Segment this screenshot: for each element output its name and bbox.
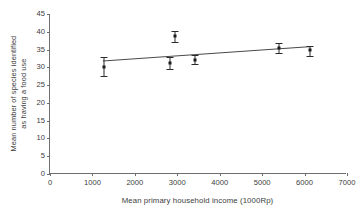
- y-axis-tick-label: 40: [37, 28, 45, 36]
- y-axis-tick-label: 25: [37, 81, 45, 89]
- x-axis-tick-label: 1000: [84, 179, 101, 187]
- y-axis-tick-label: 35: [37, 46, 45, 54]
- y-axis-tick: [47, 103, 50, 104]
- y-axis-tick: [47, 50, 50, 51]
- chart-scatter-income-vs-species: Mean number of species identified as hav…: [0, 0, 362, 213]
- y-axis-tick-label: 10: [37, 135, 45, 143]
- error-bar-cap: [101, 76, 108, 77]
- y-axis-tick-label: 15: [37, 117, 45, 125]
- y-axis-title-line-2: as having a food use: [19, 9, 29, 179]
- x-axis-tick-label: 0: [48, 179, 52, 187]
- x-axis-tick-label: 7000: [339, 179, 356, 187]
- x-axis-tick-label: 2000: [126, 179, 143, 187]
- error-bar-cap: [166, 57, 173, 58]
- y-axis-tick: [47, 85, 50, 86]
- x-axis-tick-label: 3000: [169, 179, 186, 187]
- error-bar-cap: [276, 43, 283, 44]
- x-axis-tick: [305, 173, 306, 176]
- x-axis-tick: [135, 173, 136, 176]
- x-axis-tick: [50, 173, 51, 176]
- x-axis-tick: [262, 173, 263, 176]
- y-axis-title-line-1: Mean number of species identified: [9, 9, 19, 179]
- error-bar-cap: [192, 55, 199, 56]
- error-bar-cap: [101, 57, 108, 58]
- data-point-marker: [194, 58, 197, 61]
- y-axis-tick: [47, 138, 50, 139]
- x-axis-tick: [220, 173, 221, 176]
- error-bar-cap: [172, 42, 179, 43]
- y-axis-tick: [47, 67, 50, 68]
- y-axis-tick-label: 0: [41, 170, 45, 178]
- y-axis-tick: [47, 32, 50, 33]
- data-point-marker: [103, 66, 106, 69]
- x-axis-tick: [177, 173, 178, 176]
- x-axis-tick: [347, 173, 348, 176]
- plot-area: 0510152025303540450100020003000400050006…: [49, 14, 346, 174]
- y-axis-tick-label: 20: [37, 99, 45, 107]
- y-axis-tick-label: 30: [37, 64, 45, 72]
- x-axis-tick-label: 6000: [296, 179, 313, 187]
- x-axis-tick: [92, 173, 93, 176]
- error-bar-cap: [306, 46, 313, 47]
- y-axis-tick: [47, 121, 50, 122]
- error-bar-cap: [172, 31, 179, 32]
- y-axis-title: Mean number of species identified as hav…: [9, 9, 28, 179]
- y-axis-tick-label: 5: [41, 152, 45, 160]
- x-axis-title: Mean primary household income (1000Rp): [49, 196, 346, 205]
- error-bar-cap: [306, 56, 313, 57]
- y-axis-tick: [47, 156, 50, 157]
- y-axis-tick-label: 45: [37, 10, 45, 18]
- data-point-marker: [308, 49, 311, 52]
- data-point-marker: [278, 47, 281, 50]
- x-axis-tick-label: 4000: [211, 179, 228, 187]
- trend-line: [50, 14, 346, 173]
- data-point-marker: [174, 35, 177, 38]
- error-bar-cap: [166, 69, 173, 70]
- y-axis-tick: [47, 14, 50, 15]
- error-bar-cap: [276, 53, 283, 54]
- data-point-marker: [168, 62, 171, 65]
- x-axis-tick-label: 5000: [254, 179, 271, 187]
- error-bar-cap: [192, 64, 199, 65]
